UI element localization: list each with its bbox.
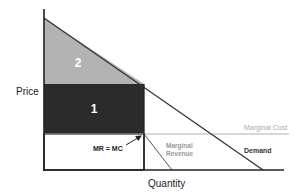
x-axis-label: Quantity [148, 178, 185, 189]
marginal-cost-label: Marginal Cost [244, 124, 287, 132]
y-axis-label: Price [16, 86, 39, 97]
region-2-label: 2 [75, 56, 82, 70]
mr-mc-label: MR = MC [93, 145, 123, 152]
cost-box [44, 134, 144, 170]
monopoly-diagram: 2 1 Price Quantity MR = MC Marginal Cost… [0, 0, 302, 196]
marginal-revenue-label-2: Revenue [166, 150, 193, 157]
region-1-label: 1 [91, 102, 98, 116]
marginal-revenue-label-1: Marginal [166, 142, 193, 150]
demand-label: Demand [244, 147, 272, 154]
